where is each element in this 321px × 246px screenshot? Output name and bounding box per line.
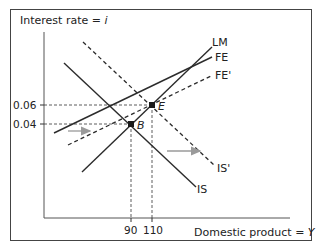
point-b-label: B bbox=[137, 119, 145, 132]
x-tick-90: 90 bbox=[124, 224, 137, 236]
is-label: IS bbox=[197, 183, 207, 196]
point-e-marker bbox=[149, 102, 155, 108]
x-tick-110: 110 bbox=[143, 224, 163, 236]
is-prime-label: IS' bbox=[217, 162, 230, 175]
y-tick-0.06: 0.06 bbox=[13, 99, 37, 111]
fe-label: FE bbox=[215, 51, 228, 64]
lm-label: LM bbox=[212, 36, 228, 49]
point-e-label: E bbox=[158, 100, 165, 113]
fe-prime-label: FE' bbox=[215, 69, 231, 82]
is-lm-fe-diagram: Interest rate = i Domestic product = Y 0… bbox=[0, 0, 321, 246]
point-b-marker bbox=[128, 121, 134, 127]
y-tick-0.04: 0.04 bbox=[13, 118, 37, 130]
y-axis-label: Interest rate = i bbox=[20, 14, 108, 27]
x-axis-label: Domestic product = Y bbox=[194, 226, 316, 239]
